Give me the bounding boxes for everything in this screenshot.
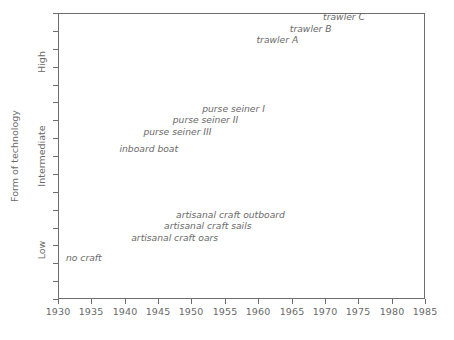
data-point-label: purse seiner I (202, 104, 265, 113)
x-tick-mark (358, 299, 359, 304)
x-tick-mark (225, 299, 226, 304)
x-tick-mark (425, 299, 426, 304)
data-point-label: trawler A (257, 35, 299, 44)
y-tick-mark (53, 120, 58, 121)
data-point-label: inboard boat (119, 144, 178, 153)
y-tick-mark (53, 102, 58, 103)
data-point-label: trawler C (323, 12, 365, 21)
y-tick-mark (53, 245, 58, 246)
x-tick-mark (91, 299, 92, 304)
y-tick-mark (53, 263, 58, 264)
x-tick-mark (292, 299, 293, 304)
data-point-label: artisanal craft sails (164, 221, 251, 230)
y-tick-mark (53, 174, 58, 175)
y-tick-mark (53, 299, 58, 300)
data-point-label: artisanal craft outboard (176, 210, 285, 219)
x-tick-mark (158, 299, 159, 304)
y-tick-mark (53, 67, 58, 68)
y-tick-mark (53, 228, 58, 229)
x-tick-mark (325, 299, 326, 304)
y-tick-label: Intermediate (36, 116, 48, 196)
x-tick-mark (125, 299, 126, 304)
plot-area-frame (58, 13, 425, 299)
data-point-label: no craft (66, 253, 102, 262)
y-tick-mark (53, 210, 58, 211)
x-tick-mark (191, 299, 192, 304)
x-tick-mark (58, 299, 59, 304)
y-axis-title: Form of technology (9, 56, 21, 256)
y-tick-mark (53, 281, 58, 282)
y-tick-mark (53, 49, 58, 50)
y-tick-mark (53, 156, 58, 157)
y-tick-mark (53, 85, 58, 86)
x-tick-mark (258, 299, 259, 304)
y-tick-mark (53, 31, 58, 32)
y-tick-mark (53, 192, 58, 193)
data-point-label: purse seiner II (173, 115, 238, 124)
y-tick-mark (53, 13, 58, 14)
y-tick-label: Low (36, 210, 48, 290)
data-point-label: artisanal craft oars (131, 233, 218, 242)
chart-canvas: Form of technology 193019351940194519501… (0, 0, 454, 340)
y-tick-label: High (36, 22, 48, 102)
x-tick-mark (392, 299, 393, 304)
x-tick-label: 1985 (402, 306, 448, 317)
data-point-label: trawler B (290, 24, 332, 33)
y-tick-mark (53, 138, 58, 139)
data-point-label: purse seiner III (143, 127, 211, 136)
